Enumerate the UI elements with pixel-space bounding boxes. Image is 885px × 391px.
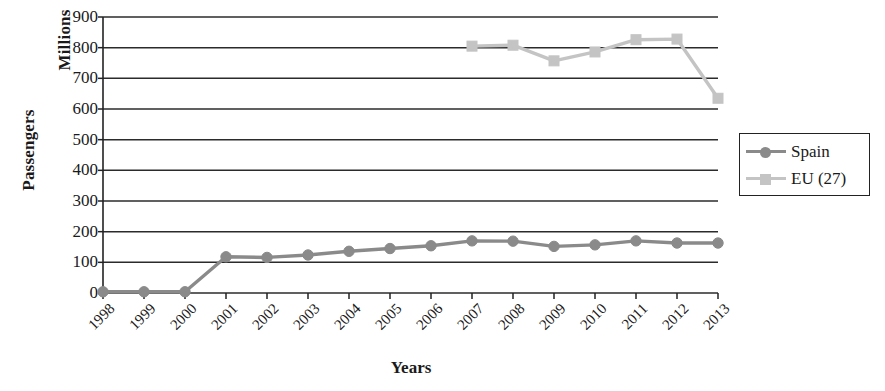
data-point-marker: Spain 2004: 136 bbox=[344, 246, 354, 256]
data-point-marker: Spain 2005: 145 bbox=[385, 243, 395, 253]
data-point-marker: EU (27) 2007: 805 bbox=[467, 41, 477, 51]
data-point-marker: EU (27) 2011: 826 bbox=[631, 35, 641, 45]
data-point-marker: Spain 1998: 4 bbox=[98, 287, 108, 297]
data-point-marker: Spain 2003: 124 bbox=[303, 250, 313, 260]
data-point-marker: Spain 2011: 170 bbox=[631, 236, 641, 246]
data-point-marker: Spain 2000: 4 bbox=[180, 287, 190, 297]
legend-label-spain: Spain bbox=[791, 143, 830, 160]
data-point-marker: Spain 2012: 163 bbox=[672, 238, 682, 248]
data-point-marker: Spain 2002: 116 bbox=[262, 252, 272, 262]
data-point-marker: Spain 2006: 154 bbox=[426, 241, 436, 251]
legend-item-spain[interactable]: Spain bbox=[740, 138, 869, 165]
data-point-marker: Spain 2001: 118 bbox=[221, 252, 231, 262]
legend-item-eu27[interactable]: EU (27) bbox=[740, 165, 869, 192]
line-square-marker-icon bbox=[746, 172, 786, 186]
chart-legend: Spain EU (27) bbox=[739, 133, 870, 196]
line-chart: Passengers Millions Years 90080070060050… bbox=[0, 0, 885, 391]
data-point-marker: Spain 1999: 4 bbox=[139, 287, 149, 297]
data-point-marker: EU (27) 2013: 635 bbox=[713, 93, 723, 103]
series-spain: Spain 1998: 4Spain 1999: 4Spain 2000: 4S… bbox=[98, 236, 723, 297]
data-point-marker: Spain 2009: 152 bbox=[549, 241, 559, 251]
data-point-marker: Spain 2013: 163 bbox=[713, 238, 723, 248]
legend-label-eu27: EU (27) bbox=[791, 170, 846, 187]
data-point-marker: Spain 2010: 157 bbox=[590, 240, 600, 250]
data-point-marker: EU (27) 2008: 808 bbox=[508, 40, 518, 50]
data-point-marker: EU (27) 2012: 828 bbox=[672, 34, 682, 44]
data-point-marker: Spain 2007: 170 bbox=[467, 236, 477, 246]
series-line bbox=[103, 241, 718, 292]
line-circle-marker-icon bbox=[746, 145, 786, 159]
series-eu-27: EU (27) 2007: 805EU (27) 2008: 808EU (27… bbox=[467, 34, 723, 103]
data-point-marker: Spain 2008: 169 bbox=[508, 236, 518, 246]
data-point-marker: EU (27) 2010: 786 bbox=[590, 47, 600, 57]
data-point-marker: EU (27) 2009: 757 bbox=[549, 56, 559, 66]
